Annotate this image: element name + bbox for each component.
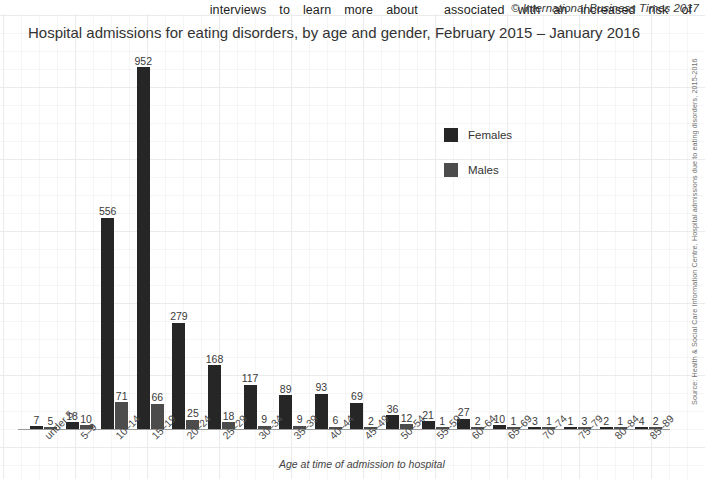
copyright-credit: © International Business Times 2017 [511,2,699,14]
ocr-word: to [279,3,290,17]
chart-title: Hospital admissions for eating disorders… [28,24,640,41]
ocr-word: about [386,3,418,17]
bar-females[interactable]: 556 [101,218,114,429]
bar-value-label: 7 [34,415,40,426]
bar-value-label: 69 [351,391,363,402]
chart-page: interviewstolearnmoreaboutassociatedwith… [0,0,705,479]
ocr-word: learn [303,3,331,17]
bar-fill [101,218,114,429]
bar-value-label: 36 [387,404,399,415]
bar-value-label: 66 [151,392,163,403]
x-axis-title: Age at time of admission to hospital [279,458,445,470]
bar-fill [137,67,150,429]
bar-females[interactable]: 952 [137,67,150,429]
bar-value-label: 89 [280,384,292,395]
bar-value-label: 117 [242,373,259,384]
bar-group: 55671 [101,218,128,429]
bar-value-label: 25 [187,408,199,419]
bar-value-label: 952 [135,56,153,67]
bar-value-label: 27 [458,407,470,418]
bar-group: 95266 [137,67,164,429]
bar-females[interactable]: 279 [172,323,185,429]
bar-value-label: 71 [116,391,128,402]
bar-value-label: 279 [170,311,188,322]
bar-value-label: 556 [99,206,117,217]
ocr-word: associated [444,3,505,17]
plot-area: 7518105567195266279251681811798999366923… [0,60,685,429]
bar-value-label: 168 [206,354,224,365]
bar-group: 27925 [172,323,199,429]
ocr-word: more [344,3,373,17]
bar-value-label: 93 [315,382,327,393]
bar-fill [172,323,185,429]
bar-fill [350,403,363,429]
ocr-word: interviews [210,3,267,17]
bar-females[interactable]: 69 [350,403,363,429]
source-note: Source: Health & Social Care Information… [690,58,704,418]
